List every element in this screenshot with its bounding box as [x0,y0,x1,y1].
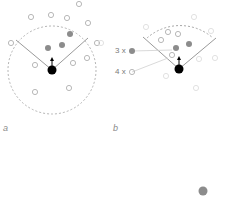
view-cone-right-line [179,38,216,69]
filled-neighbors-in-view [173,41,192,51]
legend-leader-hollow [132,58,168,72]
panel-b-label: b [113,123,118,133]
heading-arrow-icon [177,56,181,60]
legend-leader-filled [132,50,172,51]
panel-a [8,1,100,114]
legend-filled-dot [129,48,135,54]
hollow-neighbors [8,1,99,94]
legend-hollow-count: 4 x [115,67,126,76]
heading-arrow-icon [50,57,54,61]
stray-filled-dot [199,187,208,196]
agent-dot [48,66,57,75]
diagram-canvas [0,0,225,199]
filled-neighbors [45,31,73,51]
legend-filled-count: 3 x [115,46,126,55]
panel-a-label: a [3,123,8,133]
view-cone-left-line [16,40,52,70]
view-cone-right-line [52,38,88,70]
agent-dot [175,65,184,74]
